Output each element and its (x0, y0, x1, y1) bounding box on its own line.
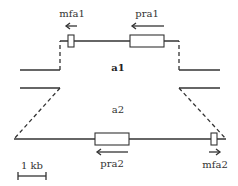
pra1-label: pra1 (135, 8, 159, 19)
a2-left-junction (14, 88, 60, 139)
pra1-gene-box (130, 35, 164, 47)
mfa2-gene-box (211, 133, 217, 145)
scale-bar: 1 kb (18, 160, 46, 180)
mfa1-arrow-left-icon (66, 23, 77, 29)
pra2-arrow-left-icon (97, 149, 128, 155)
a2-locus: pra2 mfa2 a2 (14, 88, 228, 170)
scale-bar-label: 1 kb (21, 160, 43, 171)
pra2-label: pra2 (100, 158, 124, 169)
mfa1-label: mfa1 (59, 8, 85, 19)
locus-diagram: mfa1 pra1 a1 pra2 mfa2 (0, 0, 238, 186)
mfa1-gene-box (68, 35, 74, 47)
mfa2-arrow-right-icon (209, 149, 220, 155)
a2-label: a2 (112, 104, 124, 115)
pra1-arrow-left-icon (132, 23, 164, 29)
a1-locus: mfa1 pra1 a1 (20, 8, 220, 73)
pra2-gene-box (95, 133, 129, 145)
mfa2-label: mfa2 (202, 159, 228, 170)
a1-label: a1 (111, 62, 124, 73)
a2-right-junction (179, 88, 226, 139)
